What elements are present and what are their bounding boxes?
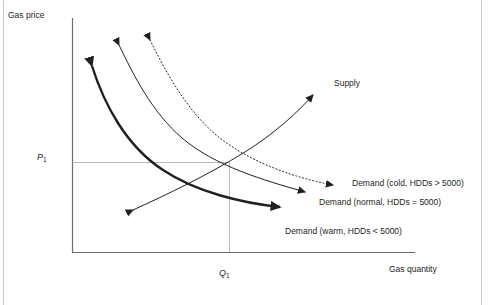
demand-cold-label: Demand (cold, HDDs > 5000) [352, 179, 464, 188]
equilibrium-price-subscript: 1 [43, 156, 47, 163]
equilibrium-quantity-label: Q1 [219, 269, 230, 278]
demand-curve-warm [92, 66, 280, 207]
figure-container: Gas price Gas quantity P1 Q1 Supply Dema… [0, 0, 496, 305]
equilibrium-price-label: P1 [37, 153, 47, 162]
demand-curve-normal [119, 45, 305, 192]
plot-area [0, 0, 496, 305]
equilibrium-quantity-symbol: Q [219, 268, 226, 278]
demand-normal-label: Demand (normal, HDDs = 5000) [319, 198, 441, 207]
supply-curve-label: Supply [334, 79, 360, 88]
equilibrium-quantity-subscript: 1 [226, 272, 230, 279]
x-axis-label: Gas quantity [389, 265, 437, 274]
supply-curve [133, 95, 313, 210]
demand-curve-cold [150, 40, 333, 185]
demand-warm-label: Demand (warm, HDDs < 5000) [285, 227, 402, 236]
y-axis-label: Gas price [8, 11, 44, 20]
